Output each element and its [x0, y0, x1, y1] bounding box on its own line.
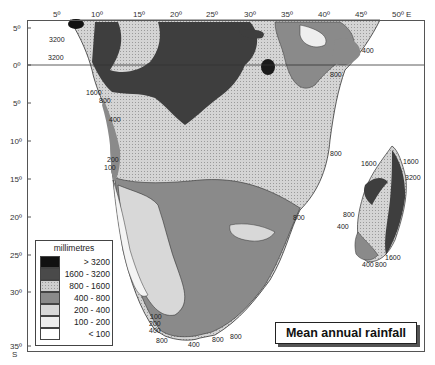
legend-label: 100 - 200	[74, 317, 110, 327]
map-title-box: Mean annual rainfall	[275, 322, 417, 344]
legend-title: millimetres	[36, 243, 112, 253]
legend-item: < 100	[40, 328, 110, 340]
contour-label: 3200	[48, 54, 64, 62]
legend-item: 400 - 800	[40, 292, 110, 304]
contour-label: 3200	[405, 174, 421, 182]
map-legend: millimetres > 3200 1600 - 3200 800 - 160…	[35, 240, 113, 346]
contour-label: 400	[337, 223, 349, 231]
contour-label: 400	[188, 341, 200, 349]
legend-item: 1600 - 3200	[40, 268, 110, 280]
contour-label: 3200	[49, 36, 65, 44]
contour-label: 400	[109, 116, 121, 124]
contour-label: 800	[212, 336, 224, 344]
legend-item: 200 - 400	[40, 304, 110, 316]
contour-label: 800	[230, 333, 242, 341]
contour-label: 800	[330, 71, 342, 79]
contour-label: 800	[375, 261, 387, 269]
legend-swatch	[40, 328, 60, 340]
contour-label: 800	[343, 211, 355, 219]
contour-label: 1600	[86, 89, 102, 97]
legend-label: 400 - 800	[74, 293, 110, 303]
legend-label: 800 - 1600	[69, 281, 110, 291]
legend-item: > 3200	[40, 256, 110, 268]
legend-label: > 3200	[84, 257, 110, 267]
contour-label: 400	[362, 261, 374, 269]
contour-label: 1600	[385, 254, 401, 262]
legend-label: 200 - 400	[74, 305, 110, 315]
legend-label: < 100	[88, 329, 110, 339]
legend-swatch	[40, 292, 60, 304]
contour-label: 800	[99, 97, 111, 105]
contour-label: 400	[362, 47, 374, 55]
contour-label: 1600	[403, 158, 419, 166]
legend-swatch	[40, 280, 60, 292]
legend-item: 100 - 200	[40, 316, 110, 328]
contour-label: 100	[104, 164, 116, 172]
contour-label: 1600	[361, 160, 377, 168]
legend-swatch	[40, 316, 60, 328]
contour-label: 200	[107, 156, 119, 164]
contour-label: 800	[156, 337, 168, 345]
legend-item: 800 - 1600	[40, 280, 110, 292]
map-title: Mean annual rainfall	[276, 326, 416, 340]
contour-label: 400	[149, 327, 161, 335]
contour-label: 800	[293, 214, 305, 222]
legend-swatch	[40, 268, 60, 280]
legend-label: 1600 - 3200	[65, 269, 110, 279]
legend-swatch	[40, 304, 60, 316]
legend-swatch	[40, 256, 60, 268]
contour-label: 800	[330, 150, 342, 158]
